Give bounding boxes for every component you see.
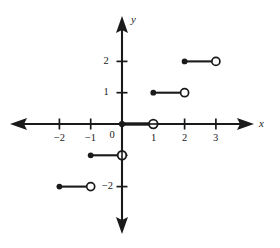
open-endpoint-y1 [181,89,189,97]
open-endpoint-yneg2 [87,183,95,191]
plot-canvas [0,0,280,248]
step-segment-yneg2 [57,183,95,191]
closed-endpoint-y1 [150,90,156,96]
y-tick-label-1: 1 [100,87,112,98]
y-tick-label-2: 2 [100,56,112,67]
x-tick-label-2: 2 [178,133,191,144]
step-segment-yneg1 [88,150,127,162]
x-axis-label: x [259,118,264,129]
x-tick-label-3: 3 [209,133,222,144]
closed-endpoint-y0 [119,121,125,127]
y-tick-label-neg2: −2 [97,181,118,192]
step-function-graph-figure: x y 0 −2 −1 1 2 3 2 1 −2 [0,0,280,248]
closed-endpoint-y2 [182,59,188,65]
step-segment-y2 [182,57,220,65]
closed-endpoint-yneg1 [88,152,94,158]
closed-endpoint-yneg2 [57,184,63,190]
x-tick-label-neg2: −2 [49,133,70,144]
x-tick-label-neg1: −1 [80,133,101,144]
y-axis-label: y [131,14,136,25]
step-segment-y0 [119,120,159,129]
step-segment-y1 [150,89,188,97]
origin-label: 0 [106,130,118,141]
open-endpoint-y2 [212,57,220,65]
x-tick-label-1: 1 [147,133,160,144]
